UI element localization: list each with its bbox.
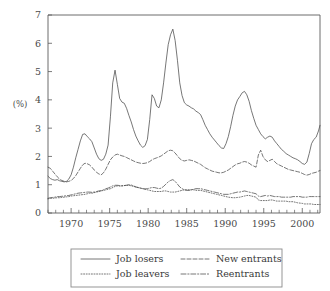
x-tick-label: 1970 bbox=[59, 218, 83, 229]
y-tick-label: 6 bbox=[35, 38, 41, 49]
x-tick-label: 1980 bbox=[136, 218, 160, 229]
x-axis-ticks bbox=[48, 208, 318, 213]
x-axis-tick-labels: 1970197519801985199019952000 bbox=[59, 218, 314, 229]
x-tick-label: 1990 bbox=[213, 218, 237, 229]
series-line bbox=[48, 185, 320, 204]
y-axis-ticks bbox=[48, 15, 52, 213]
x-tick-label: 1995 bbox=[252, 218, 276, 229]
y-tick-label: 2 bbox=[35, 151, 41, 162]
legend-item[interactable]: Job losers bbox=[81, 253, 163, 264]
x-tick-label: 2000 bbox=[290, 218, 314, 229]
series-line bbox=[48, 29, 320, 182]
legend-item[interactable]: Job leavers bbox=[81, 268, 169, 279]
legend-label: Job losers bbox=[115, 253, 163, 264]
legend-item[interactable]: Reentrants bbox=[181, 268, 269, 279]
x-tick-label: 1985 bbox=[175, 218, 199, 229]
y-tick-label: 7 bbox=[35, 9, 41, 20]
y-tick-label: 5 bbox=[35, 66, 41, 77]
y-tick-label: 0 bbox=[35, 207, 41, 218]
y-tick-label: 4 bbox=[35, 94, 41, 105]
series-line bbox=[48, 150, 320, 182]
y-tick-label: 3 bbox=[35, 123, 41, 134]
y-axis-tick-labels: 01234567 bbox=[35, 9, 41, 218]
legend-label: New entrants bbox=[216, 253, 282, 264]
y-axis-title: (%) bbox=[13, 99, 28, 109]
chart-canvas: 01234567 1970197519801985199019952000 (%… bbox=[0, 0, 330, 291]
y-tick-label: 1 bbox=[35, 179, 41, 190]
x-tick-label: 1975 bbox=[98, 218, 122, 229]
unemployment-reason-chart: 01234567 1970197519801985199019952000 (%… bbox=[0, 0, 330, 291]
legend-label: Job leavers bbox=[115, 268, 169, 279]
series-line bbox=[48, 180, 320, 199]
plot-frame bbox=[48, 15, 320, 213]
chart-legend: Job losersJob leaversNew entrantsReentra… bbox=[71, 249, 282, 287]
series-group bbox=[48, 29, 320, 204]
legend-label: Reentrants bbox=[216, 268, 269, 279]
legend-item[interactable]: New entrants bbox=[181, 253, 282, 264]
